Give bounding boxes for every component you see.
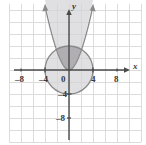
coordinate-plane-figure: –8 –4 0 4 8 –4 –8 y x xyxy=(0,0,146,145)
graph-canvas xyxy=(0,0,146,145)
x-tick-label-4: 4 xyxy=(91,75,96,84)
x-tick-label-8: 8 xyxy=(114,75,119,84)
y-axis-label: y xyxy=(72,2,76,11)
y-tick-label-neg4: –4 xyxy=(58,90,67,99)
origin-label: 0 xyxy=(61,75,66,84)
x-axis-label: x xyxy=(133,62,138,71)
y-tick-label-neg8: –8 xyxy=(56,114,65,123)
x-tick-label-neg8: –8 xyxy=(15,75,24,84)
x-tick-label-neg4: –4 xyxy=(39,75,48,84)
